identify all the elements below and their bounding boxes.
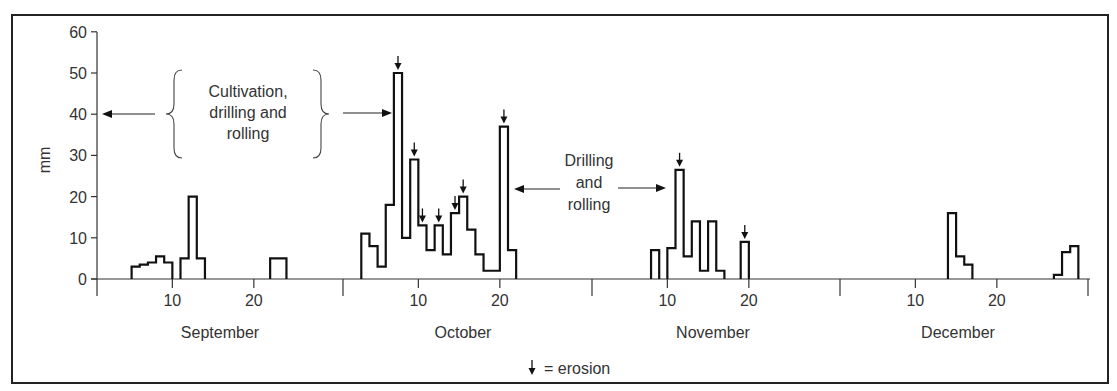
arrow-right-icon [382, 109, 392, 117]
rainfall-chart: 01020304050601020September1020October102… [0, 0, 1117, 391]
rainfall-bar-group [948, 213, 972, 279]
y-tick-label: 0 [78, 271, 87, 288]
y-axis-label: mm [36, 147, 53, 174]
drilling-arrow-right-icon [656, 184, 666, 192]
x-tick-label: 10 [658, 292, 676, 309]
y-tick-label: 60 [69, 24, 87, 41]
month-label-november: November [676, 324, 750, 341]
y-tick-label: 10 [69, 230, 87, 247]
x-tick-label: 20 [988, 292, 1006, 309]
rainfall-bar-group [1054, 246, 1078, 279]
annotation-drilling-text: rolling [568, 196, 611, 213]
rainfall-bar-group [651, 250, 659, 279]
rainfall-bar-group [181, 197, 205, 279]
left-brace-icon [166, 70, 182, 158]
rainfall-bar-group [270, 258, 286, 279]
annotation-cultivation-text: Cultivation, [208, 83, 287, 100]
annotation-drilling-text: and [576, 174, 603, 191]
erosion-arrow-head-icon [460, 187, 467, 194]
erosion-arrow-head-icon [500, 117, 507, 124]
x-tick-label: 20 [245, 292, 263, 309]
y-tick-label: 20 [69, 189, 87, 206]
erosion-arrow-head-icon [394, 63, 401, 70]
rainfall-bar-group [361, 73, 516, 279]
y-tick-label: 50 [69, 65, 87, 82]
right-brace-icon [313, 70, 329, 158]
legend-label: = erosion [544, 360, 610, 377]
annotation-drilling-text: Drilling [565, 152, 614, 169]
x-tick-label: 10 [409, 292, 427, 309]
annotation-cultivation-text: drilling and [209, 104, 286, 121]
x-tick-label: 10 [906, 292, 924, 309]
rainfall-bar-group [741, 242, 749, 279]
erosion-arrow-head-icon [435, 215, 442, 222]
y-tick-label: 30 [69, 147, 87, 164]
month-label-october: October [435, 324, 493, 341]
x-tick-label: 20 [740, 292, 758, 309]
x-tick-label: 10 [163, 292, 181, 309]
arrow-left-icon [102, 110, 112, 118]
rainfall-bar-group [667, 170, 724, 279]
erosion-arrow-head-icon [419, 215, 426, 222]
rainfall-bar-group [132, 256, 173, 279]
annotation-cultivation-text: rolling [227, 125, 270, 142]
erosion-arrow-head-icon [452, 203, 459, 210]
drilling-arrow-left-icon [514, 185, 524, 193]
x-tick-label: 20 [491, 292, 509, 309]
erosion-arrow-head-icon [741, 232, 748, 239]
month-label-september: September [181, 324, 260, 341]
month-label-december: December [921, 324, 995, 341]
legend-erosion-arrowhead-icon [529, 368, 536, 375]
erosion-arrow-head-icon [411, 150, 418, 157]
erosion-arrow-head-icon [676, 160, 683, 167]
y-tick-label: 40 [69, 106, 87, 123]
